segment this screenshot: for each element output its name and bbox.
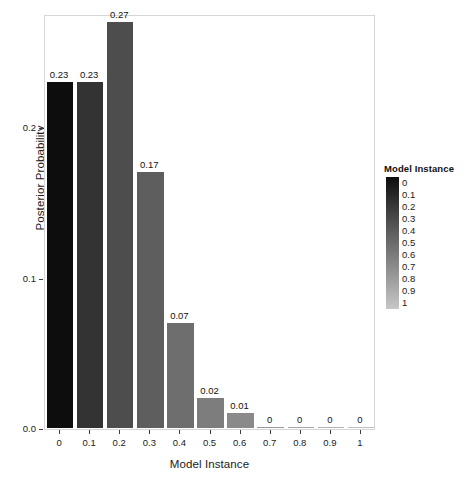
x-tick-mark (300, 430, 301, 434)
y-tick-label: 0.1 (8, 274, 36, 284)
bar-value-label: 0.27 (99, 10, 139, 20)
bar[interactable] (77, 82, 103, 428)
x-tick-mark (330, 430, 331, 434)
bar-value-label: 0 (340, 415, 380, 425)
y-tick-mark (39, 279, 43, 280)
bar-chart: Posterior Probability 0.00.10.2 0.230.23… (0, 0, 475, 487)
x-tick-label: 1 (340, 438, 380, 448)
bar[interactable] (318, 427, 344, 428)
bar-value-label: 0.17 (129, 160, 169, 170)
legend-key-label: 0.2 (402, 202, 415, 212)
y-tick-label: 0.0 (8, 424, 36, 434)
bar[interactable] (137, 172, 163, 428)
legend-key-label: 0.3 (402, 214, 415, 224)
bar[interactable] (107, 22, 133, 428)
x-tick-mark (89, 430, 90, 434)
legend-key-label: 0.1 (402, 190, 415, 200)
bar-value-label: 0.01 (220, 401, 260, 411)
x-tick-mark (119, 430, 120, 434)
legend-key-label: 1 (402, 298, 407, 308)
legend-key-label: 0.6 (402, 250, 415, 260)
legend-key-label: 0.4 (402, 226, 415, 236)
bar-value-label: 0.02 (190, 386, 230, 396)
legend-key-label: 0.8 (402, 274, 415, 284)
legend-title: Model Instance (384, 163, 454, 174)
x-tick-mark (240, 430, 241, 434)
legend-colorbar (386, 177, 399, 309)
bar[interactable] (348, 427, 374, 428)
x-tick-mark (210, 430, 211, 434)
x-tick-mark (149, 430, 150, 434)
x-axis-title: Model Instance (44, 458, 375, 470)
legend: Model Instance 00.10.20.30.40.50.60.70.8… (384, 163, 454, 177)
bar[interactable] (288, 427, 314, 428)
x-tick-mark (360, 430, 361, 434)
bar-value-label: 0.23 (69, 70, 109, 80)
legend-key-label: 0.9 (402, 286, 415, 296)
x-tick-mark (59, 430, 60, 434)
legend-key-label: 0.5 (402, 238, 415, 248)
bar[interactable] (257, 427, 283, 428)
legend-key-label: 0 (402, 178, 407, 188)
y-tick-mark (39, 128, 43, 129)
y-tick-mark (39, 429, 43, 430)
bar-value-label: 0.07 (159, 311, 199, 321)
legend-key-label: 0.7 (402, 262, 415, 272)
bar[interactable] (167, 323, 193, 428)
bar[interactable] (47, 82, 73, 428)
x-tick-mark (270, 430, 271, 434)
y-tick-label: 0.2 (8, 123, 36, 133)
x-tick-mark (179, 430, 180, 434)
